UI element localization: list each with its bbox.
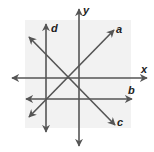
line-b-label: b: [128, 84, 135, 96]
y-axis-label: y: [82, 4, 90, 16]
line-c-label: c: [117, 116, 123, 128]
coordinate-plane-figure: xyabcd: [0, 0, 154, 152]
line-a-label: a: [116, 23, 122, 35]
x-axis-label: x: [140, 63, 148, 75]
line-d-label: d: [51, 22, 58, 34]
coordinate-plane: xyabcd: [0, 0, 154, 152]
grid-panel: [25, 20, 131, 128]
